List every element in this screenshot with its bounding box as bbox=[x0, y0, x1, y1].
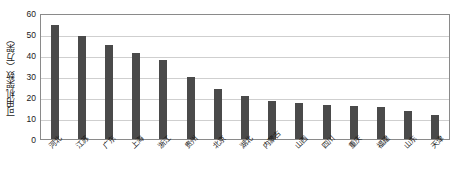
bar-slot bbox=[340, 15, 367, 139]
bar-slot bbox=[177, 15, 204, 139]
x-label-slot: 江苏 bbox=[67, 141, 94, 191]
x-label-slot: 天津 bbox=[423, 141, 450, 191]
y-tick-label: 10 bbox=[27, 114, 36, 124]
bar[interactable] bbox=[105, 45, 113, 139]
y-axis-title-text: 可用机架数（万架） bbox=[3, 35, 16, 116]
x-label-slot: 内蒙古 bbox=[259, 141, 286, 191]
x-label-slot: 山西 bbox=[286, 141, 313, 191]
y-tick-label: 60 bbox=[27, 9, 36, 19]
bar-slot bbox=[68, 15, 95, 139]
bar-chart: 可用机架数（万架） 0102030405060 河北江苏广东上海浙江贵州北京湖北… bbox=[0, 0, 466, 191]
bar[interactable] bbox=[132, 53, 140, 139]
bar-slot bbox=[259, 15, 286, 139]
bar-slot bbox=[150, 15, 177, 139]
bar[interactable] bbox=[214, 89, 222, 139]
x-label-slot: 广东 bbox=[95, 141, 122, 191]
bar-slot bbox=[231, 15, 258, 139]
bar-slot bbox=[422, 15, 449, 139]
bar-slot bbox=[123, 15, 150, 139]
x-label-slot: 北京 bbox=[204, 141, 231, 191]
bar-series bbox=[41, 15, 449, 139]
y-axis-title: 可用机架数（万架） bbox=[0, 0, 18, 150]
plot-area bbox=[40, 14, 450, 140]
bar[interactable] bbox=[159, 60, 167, 139]
bar-slot bbox=[395, 15, 422, 139]
x-axis-tick-labels: 河北江苏广东上海浙江贵州北京湖北内蒙古山西四川重庆福建山东天津 bbox=[40, 141, 450, 191]
bar-slot bbox=[286, 15, 313, 139]
bar[interactable] bbox=[51, 25, 59, 139]
y-tick-label: 40 bbox=[27, 51, 36, 61]
x-label-slot: 福建 bbox=[368, 141, 395, 191]
x-label-slot: 贵州 bbox=[177, 141, 204, 191]
x-label-slot: 河北 bbox=[40, 141, 67, 191]
bar-slot bbox=[95, 15, 122, 139]
x-label-slot: 上海 bbox=[122, 141, 149, 191]
bar[interactable] bbox=[78, 36, 86, 139]
y-tick-label: 50 bbox=[27, 30, 36, 40]
bar-slot bbox=[367, 15, 394, 139]
x-label-slot: 浙江 bbox=[149, 141, 176, 191]
y-tick-label: 30 bbox=[27, 72, 36, 82]
x-label-slot: 山东 bbox=[395, 141, 422, 191]
bar-slot bbox=[204, 15, 231, 139]
x-label-slot: 四川 bbox=[313, 141, 340, 191]
y-tick-label: 20 bbox=[27, 93, 36, 103]
bar-slot bbox=[41, 15, 68, 139]
x-label-slot: 重庆 bbox=[341, 141, 368, 191]
bar[interactable] bbox=[241, 96, 249, 139]
x-label-slot: 湖北 bbox=[231, 141, 258, 191]
y-axis-tick-labels: 0102030405060 bbox=[18, 14, 38, 140]
y-tick-label: 0 bbox=[31, 135, 36, 145]
bar-slot bbox=[313, 15, 340, 139]
bar[interactable] bbox=[187, 77, 195, 139]
